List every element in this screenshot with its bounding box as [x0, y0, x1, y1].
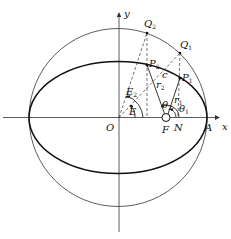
dash-O-Q2: [119, 33, 147, 118]
label-E2: E2: [125, 86, 137, 98]
point-Q1: [179, 52, 182, 55]
label-x: x: [222, 121, 228, 132]
label-Q1: Q1: [180, 39, 192, 51]
focus-marker: [162, 114, 170, 122]
label-c: c: [162, 69, 168, 80]
label-P2: P2: [148, 58, 160, 70]
label-N: N: [173, 122, 184, 133]
label-E: E: [128, 106, 137, 117]
point-Q2: [146, 32, 149, 35]
label-P1: P1: [181, 72, 193, 84]
label-r2: r2: [156, 79, 165, 91]
label-theta2: θ2: [162, 99, 172, 111]
ellipse-diagram: y x O F N A Q2 Q1 P2 P1 c r2 r1 θ2 θ1 E2…: [0, 0, 231, 239]
label-F: F: [161, 124, 170, 135]
label-O: O: [106, 122, 114, 133]
label-theta1: θ1: [179, 103, 189, 115]
label-A: A: [204, 122, 212, 133]
label-y: y: [123, 8, 130, 19]
label-Q2: Q2: [144, 18, 156, 30]
